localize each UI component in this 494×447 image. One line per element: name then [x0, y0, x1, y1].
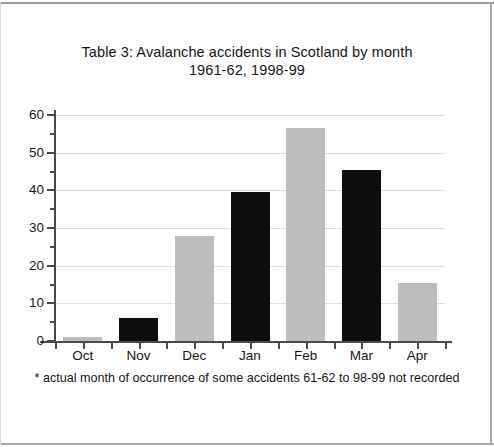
bar-dec — [175, 236, 214, 341]
y-axis-tick-major — [47, 227, 56, 229]
chart-footnote: * actual month of occurrence of some acc… — [0, 371, 494, 385]
y-axis-tick-minor — [50, 246, 56, 248]
x-axis-label-apr: Apr — [387, 349, 447, 364]
bar-nov — [119, 318, 158, 341]
bar-apr — [398, 283, 437, 341]
y-axis-label-40: 40 — [14, 183, 44, 197]
x-axis-tick — [166, 341, 168, 349]
y-axis-label-60: 60 — [14, 108, 44, 122]
y-axis-tick-minor — [50, 133, 56, 135]
y-axis-tick-major — [47, 189, 56, 191]
x-axis-label-mar: Mar — [331, 349, 391, 364]
gridline — [55, 153, 445, 154]
x-axis-label-nov: Nov — [109, 349, 169, 364]
x-axis-tick — [334, 341, 336, 349]
x-axis-tick — [222, 341, 224, 349]
x-axis-tick — [389, 341, 391, 349]
y-axis-tick-minor — [50, 171, 56, 173]
y-axis-tick-major — [47, 302, 56, 304]
x-axis-label-oct: Oct — [53, 349, 113, 364]
gridline — [55, 190, 445, 191]
x-axis-tick — [445, 341, 447, 349]
y-axis-tick-minor — [50, 284, 56, 286]
scanned-page: Table 3: Avalanche accidents in Scotland… — [0, 0, 494, 447]
y-axis-label-20: 20 — [14, 259, 44, 273]
y-axis-tick-major — [47, 265, 56, 267]
x-axis-tick — [278, 341, 280, 349]
bar-feb — [286, 128, 325, 341]
y-axis-label-50: 50 — [14, 146, 44, 160]
bar-jan — [231, 192, 270, 341]
x-axis-label-jan: Jan — [220, 349, 280, 364]
y-axis-label-0: 0 — [14, 334, 44, 348]
x-axis-tick — [55, 341, 57, 349]
y-axis-tick-minor — [50, 321, 56, 323]
y-axis-label-10: 10 — [14, 296, 44, 310]
bar-mar — [342, 170, 381, 341]
x-axis-tick — [111, 341, 113, 349]
x-axis-label-dec: Dec — [164, 349, 224, 364]
y-axis-tick-minor — [50, 208, 56, 210]
x-axis-label-feb: Feb — [276, 349, 336, 364]
plot-area — [55, 112, 445, 341]
gridline — [55, 115, 445, 116]
y-axis-tick-major — [47, 152, 56, 154]
y-axis-tick-major — [47, 114, 56, 116]
y-axis-label-30: 30 — [14, 221, 44, 235]
